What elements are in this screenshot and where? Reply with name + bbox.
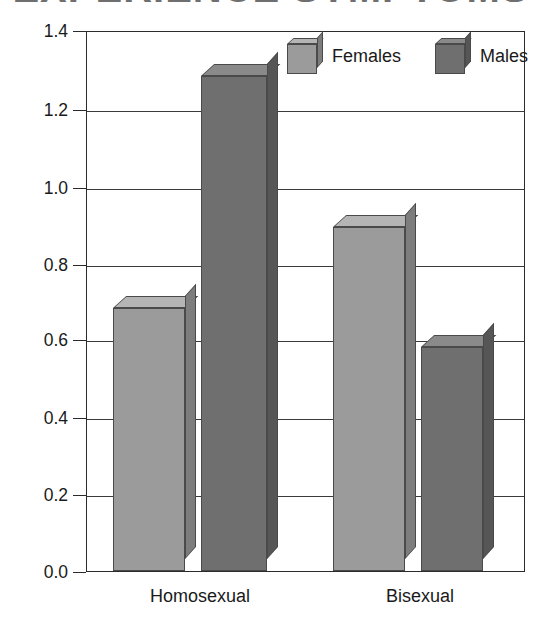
y-tick-label: 0.8	[8, 255, 68, 276]
x-tick-label-homosexual: Homosexual	[115, 586, 285, 607]
chart-page: EXPERIENCE SYMPTOMS 1.4 1.2 1.0 0.8 0.6 …	[0, 0, 541, 626]
gridline	[87, 189, 524, 190]
chart-legend: Females Males	[287, 38, 528, 74]
y-tick-mark	[73, 31, 86, 32]
gridline	[87, 111, 524, 112]
legend-label-males: Males	[480, 46, 528, 67]
gridline	[87, 266, 524, 267]
y-tick-label: 1.2	[8, 100, 68, 121]
legend-swatch-males-icon	[435, 38, 471, 74]
x-tick-label-bisexual: Bisexual	[340, 586, 500, 607]
y-tick-mark	[73, 265, 86, 266]
y-tick-label: 0.6	[8, 330, 68, 351]
y-tick-mark	[73, 572, 86, 573]
y-tick-label: 1.0	[8, 178, 68, 199]
plot-area: Females Males	[86, 31, 525, 572]
bar-bisexual-males	[421, 347, 483, 571]
y-tick-mark	[73, 188, 86, 189]
legend-swatch-females-icon	[287, 38, 323, 74]
bar-homosexual-females	[113, 308, 185, 571]
y-tick-mark	[73, 495, 86, 496]
legend-item-females: Females	[287, 38, 401, 74]
legend-item-males: Males	[435, 38, 528, 74]
bar-homosexual-males	[201, 76, 267, 571]
bar-bisexual-females	[333, 227, 405, 571]
legend-label-females: Females	[332, 46, 401, 67]
y-tick-label: 0.2	[8, 485, 68, 506]
y-tick-label: 0.4	[8, 408, 68, 429]
y-tick-mark	[73, 110, 86, 111]
y-tick-label: 1.4	[8, 21, 68, 42]
y-tick-mark	[73, 340, 86, 341]
y-tick-mark	[73, 418, 86, 419]
y-tick-label: 0.0	[8, 562, 68, 583]
